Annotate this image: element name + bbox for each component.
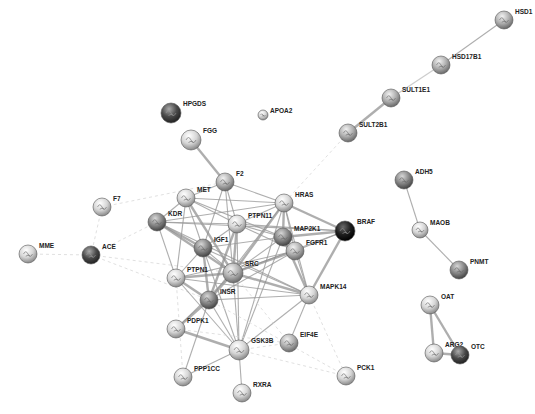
node-oat[interactable]: OAT — [421, 293, 454, 314]
node-label: MAOB — [430, 219, 450, 226]
node-sult2b1[interactable]: SULT2B1 — [339, 121, 388, 142]
node-label: APOA2 — [270, 107, 293, 114]
node-sult1e1[interactable]: SULT1E1 — [382, 86, 430, 107]
node-label: MAP2K1 — [294, 225, 321, 232]
node-eif4e[interactable]: EIF4E — [280, 331, 319, 352]
figure-caption — [150, 402, 390, 410]
edge-pck1-insr — [209, 300, 346, 376]
node-f2[interactable]: F2 — [216, 170, 244, 191]
node-rxra[interactable]: RXRA — [233, 381, 272, 402]
node-label: MAPK14 — [320, 283, 347, 290]
node-ace[interactable]: ACE — [82, 243, 116, 264]
node-pdpk1[interactable]: PDPK1 — [167, 317, 209, 338]
node-label: SULT1E1 — [402, 86, 430, 93]
node-label: HPGDS — [183, 100, 207, 107]
node-adh5[interactable]: ADH5 — [395, 168, 433, 189]
node-hpgds[interactable]: HPGDS — [161, 100, 207, 123]
node-label: GSK3B — [251, 337, 274, 344]
node-label: PDPK1 — [187, 317, 209, 324]
node-label: MME — [39, 242, 55, 249]
node-label: FGFR1 — [306, 239, 328, 246]
node-label: MET — [197, 186, 211, 193]
node-label: IGF1 — [214, 236, 229, 243]
node-label: F7 — [113, 195, 121, 202]
node-label: PTPN1 — [187, 266, 208, 273]
node-label: EIF4E — [300, 331, 319, 338]
node-label: F2 — [236, 170, 244, 177]
node-label: KDR — [168, 210, 182, 217]
node-label: HSD17B1 — [452, 53, 482, 60]
node-label: PTPN11 — [248, 212, 273, 219]
node-hsd1[interactable]: HSD1 — [495, 8, 533, 29]
node-label: FGG — [203, 127, 217, 134]
node-label: SULT2B1 — [359, 121, 388, 128]
node-label: ACE — [102, 243, 116, 250]
edge-ace-kdr — [91, 222, 157, 255]
node-label: PCK1 — [357, 364, 375, 371]
node-apoa2[interactable]: APOA2 — [258, 107, 293, 120]
node-ppp1cc[interactable]: PPP1CC — [174, 365, 220, 386]
edge-mme-ace — [28, 254, 91, 255]
node-pck1[interactable]: PCK1 — [337, 364, 375, 385]
node-pnmt[interactable]: PNMT — [450, 258, 488, 279]
node-mapk14[interactable]: MAPK14 — [300, 283, 347, 304]
node-label: OAT — [441, 293, 454, 300]
node-label: INSR — [220, 288, 236, 295]
node-label: HSD1 — [515, 8, 533, 15]
node-label: PNMT — [470, 258, 488, 265]
node-fgfr1[interactable]: FGFR1 — [286, 239, 328, 260]
node-label: BRAF — [357, 218, 375, 225]
node-label: SRC — [245, 260, 259, 267]
node-f7[interactable]: F7 — [93, 195, 121, 216]
edge-f2-hras — [225, 182, 284, 203]
node-hsd17b1[interactable]: HSD17B1 — [432, 53, 482, 74]
interaction-network: HSD1HSD17B1SULT1E1SULT2B1HPGDSAPOA2FGGF2… — [0, 0, 535, 414]
node-label: HRAS — [295, 191, 314, 198]
node-label: RXRA — [253, 381, 272, 388]
node-fgg[interactable]: FGG — [181, 127, 217, 150]
node-label: PPP1CC — [194, 365, 220, 372]
node-label: ADH5 — [415, 168, 433, 175]
node-met[interactable]: MET — [177, 186, 211, 207]
nodes-layer: HSD1HSD17B1SULT1E1SULT2B1HPGDSAPOA2FGGF2… — [19, 8, 533, 402]
node-braf[interactable]: BRAF — [335, 218, 375, 241]
edge-met-hras — [186, 198, 284, 203]
node-label: OTC — [471, 343, 485, 350]
edge-sult2b1-hras — [284, 133, 348, 203]
edge-gsk3b-pck1 — [239, 350, 346, 376]
node-mme[interactable]: MME — [19, 242, 55, 263]
